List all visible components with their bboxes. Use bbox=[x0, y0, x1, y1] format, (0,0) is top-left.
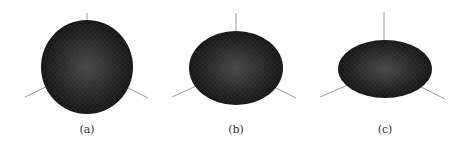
ellipsoid-mesh bbox=[338, 40, 432, 98]
panel-a bbox=[25, 13, 148, 114]
panel-c bbox=[320, 12, 445, 99]
caption-b: (b) bbox=[216, 123, 256, 136]
panel-b bbox=[172, 13, 296, 105]
spheroid-mesh bbox=[189, 31, 283, 105]
caption-c: (c) bbox=[365, 123, 405, 136]
caption-a: (a) bbox=[67, 123, 107, 136]
sphere-mesh bbox=[41, 20, 133, 114]
